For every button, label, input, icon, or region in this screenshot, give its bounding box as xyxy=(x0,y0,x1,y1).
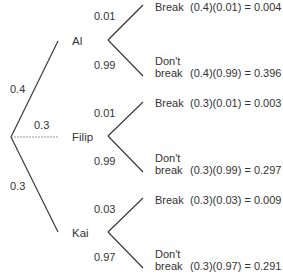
outcome-al-dontbreak-result: (0.4)(0.99) = 0.396 xyxy=(190,67,281,80)
outcome-filip-break-result: (0.3)(0.01) = 0.003 xyxy=(190,97,281,110)
outcome-filip-break-label: Break xyxy=(155,97,184,110)
outcome-kai-dontbreak-result: (0.3)(0.97) = 0.291 xyxy=(190,260,281,273)
prob-al-dontbreak: 0.99 xyxy=(94,59,115,72)
prob-kai-dontbreak: 0.97 xyxy=(94,251,115,264)
outcome-kai-dontbreak-label-2: break xyxy=(155,260,183,273)
outcome-filip-dontbreak-label-2: break xyxy=(155,164,183,177)
outcome-kai-break-label: Break xyxy=(155,194,184,207)
outcome-al-break-result: (0.4)(0.01) = 0.004 xyxy=(190,1,281,14)
outcome-al-break-label: Break xyxy=(155,1,184,14)
prob-filip-break: 0.01 xyxy=(94,107,115,120)
outcome-filip-dontbreak-result: (0.3)(0.99) = 0.297 xyxy=(190,164,281,177)
node-kai: Kai xyxy=(72,227,89,240)
prob-kai: 0.3 xyxy=(10,180,25,193)
prob-filip-dontbreak: 0.99 xyxy=(94,155,115,168)
prob-filip: 0.3 xyxy=(34,119,49,132)
node-al: Al xyxy=(72,35,82,48)
node-filip: Filip xyxy=(72,131,93,144)
prob-kai-break: 0.03 xyxy=(94,203,115,216)
prob-al: 0.4 xyxy=(10,83,25,96)
outcome-al-dontbreak-label-2: break xyxy=(155,67,183,80)
prob-al-break: 0.01 xyxy=(94,10,115,23)
outcome-kai-break-result: (0.3)(0.03) = 0.009 xyxy=(190,194,281,207)
tree-lines xyxy=(0,0,283,273)
